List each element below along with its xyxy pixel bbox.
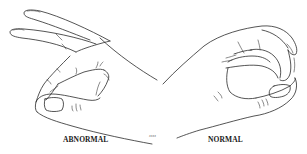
artist-signature: ɜɜɜɜ	[149, 133, 156, 138]
normal-label: NORMAL	[208, 135, 243, 144]
pinch-comparison-figure: ABNORMAL ɜɜɜɜ NORMAL	[0, 0, 307, 154]
abnormal-hand-icon	[10, 10, 157, 144]
normal-hand-icon	[163, 26, 297, 138]
abnormal-label: ABNORMAL	[63, 135, 108, 144]
hands-illustration	[0, 0, 307, 154]
